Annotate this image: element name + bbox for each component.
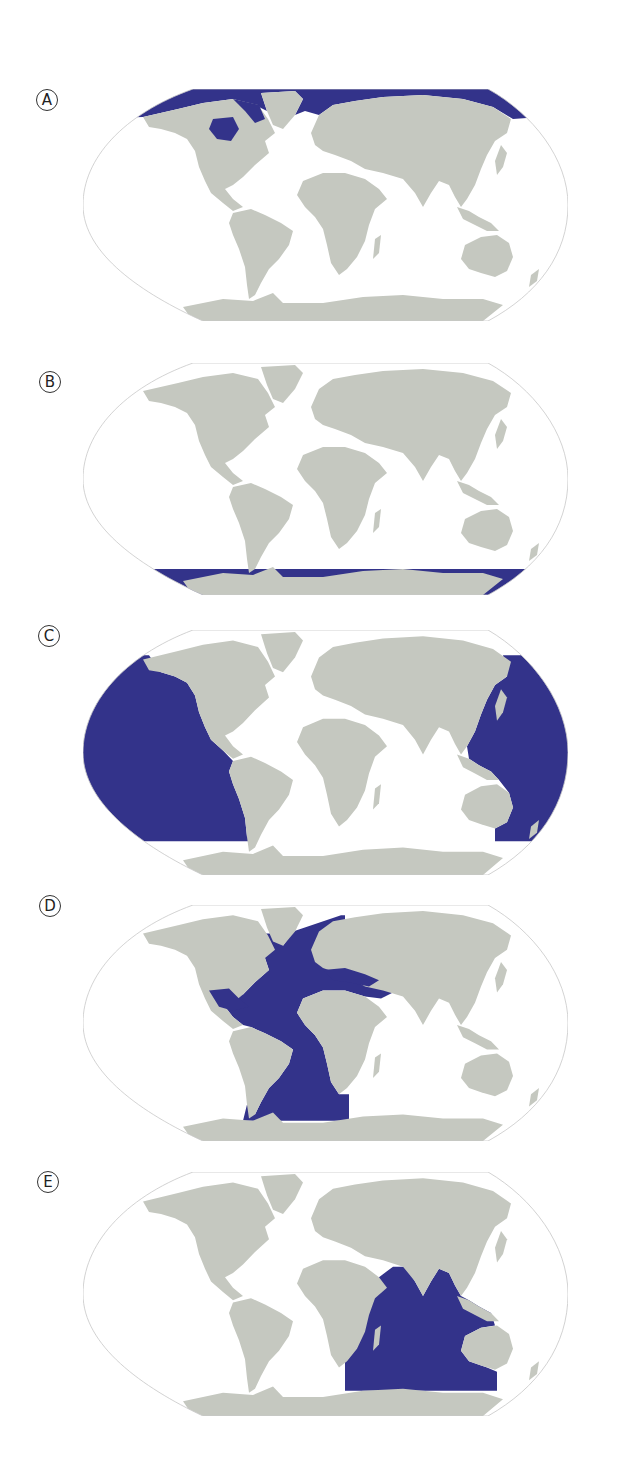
panel-label-b: B [39,371,61,393]
world-map-atlantic [83,905,568,1141]
world-map-pacific [83,630,568,875]
map-svg [83,1172,568,1416]
panel-label-c: C [38,625,60,647]
world-map-indian [83,1172,568,1416]
panel-label-d: D [39,895,61,917]
panel-label-a: A [36,89,58,111]
panel-label-e: E [37,1171,59,1193]
map-svg [83,905,568,1141]
map-svg [83,630,568,875]
map-svg [83,89,568,321]
map-svg [83,363,568,595]
world-map-arctic [83,89,568,321]
world-map-southern [83,363,568,595]
